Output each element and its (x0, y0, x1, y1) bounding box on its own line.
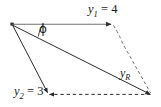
label-y1-value: 4 (111, 2, 117, 16)
construction-line-parallel-y2 (113, 25, 150, 93)
label-y2: y2 = 3 (14, 85, 43, 100)
label-phi-angle: ϕ (39, 23, 47, 35)
label-y2-value: 3 (37, 84, 43, 98)
label-yr: yR (120, 67, 130, 83)
vector-diagram-figure: y1 = 4 y2 = 3 yR ϕ (0, 0, 161, 107)
label-y2-equals: = (24, 84, 37, 98)
label-y1: y1 = 4 (88, 3, 117, 18)
label-yr-subscript: R (125, 73, 130, 82)
label-y1-equals: = (98, 2, 111, 16)
